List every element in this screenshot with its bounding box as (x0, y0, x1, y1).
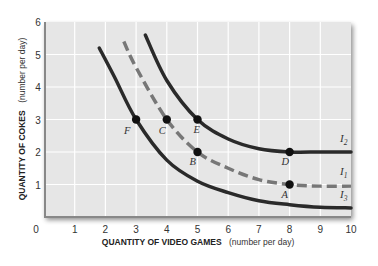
point-label-d: D (281, 156, 290, 167)
x-tick-label: 5 (195, 224, 201, 235)
x-tick-label: 10 (345, 224, 357, 235)
point-label-e: E (193, 124, 201, 135)
indifference-curve-chart: 012345678910 123456 FCEBDA I2I1I3 QUANTI… (0, 0, 378, 266)
point-f (132, 115, 140, 123)
x-tick-label: 4 (164, 224, 170, 235)
y-tick-label: 1 (35, 180, 41, 191)
y-axis-unit: (number per day) (17, 37, 27, 102)
point-e (193, 115, 201, 123)
point-label-c: C (159, 125, 167, 136)
x-axis-unit: (number per day) (229, 237, 294, 247)
x-tick-label: 0 (33, 224, 39, 235)
x-tick-label: 9 (318, 224, 324, 235)
x-tick-label: 7 (256, 224, 262, 235)
x-tick-label: 6 (225, 224, 231, 235)
y-tick-labels: 123456 (35, 17, 41, 191)
y-tick-label: 5 (35, 50, 41, 61)
point-label-f: F (123, 125, 131, 136)
point-a (285, 180, 293, 188)
point-b (193, 148, 201, 156)
x-tick-label: 2 (103, 224, 109, 235)
y-tick-label: 6 (35, 17, 41, 28)
point-label-a: A (281, 189, 289, 200)
y-axis-label: QUANTITY OF COKES (17, 110, 27, 200)
y-tick-label: 3 (35, 115, 41, 126)
x-tick-labels: 012345678910 (33, 224, 357, 235)
x-tick-label: 1 (72, 224, 78, 235)
point-label-b: B (190, 156, 197, 167)
point-d (285, 148, 293, 156)
x-tick-label: 8 (287, 224, 293, 235)
y-tick-label: 2 (35, 147, 41, 158)
x-tick-label: 3 (133, 224, 139, 235)
y-tick-label: 4 (35, 82, 41, 93)
y-axis-title: QUANTITY OF COKES (number per day) (11, 37, 28, 200)
point-c (163, 115, 171, 123)
x-axis-label: QUANTITY OF VIDEO GAMES (102, 237, 222, 247)
